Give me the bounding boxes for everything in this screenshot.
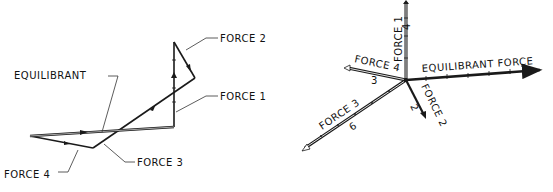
force4-vector: [30, 136, 93, 148]
leader-lines: [58, 38, 218, 172]
arrow-icon: [171, 72, 177, 78]
label-force1-magnitude: 4: [401, 24, 412, 30]
label-force2-magnitude: 2: [408, 102, 421, 113]
label-force1: FORCE 1: [220, 91, 266, 102]
arrow-icon: [344, 65, 350, 71]
force-diagrams: FORCE 2 EQUILIBRANT FORCE 1 FORCE 3 FORC…: [0, 0, 553, 192]
label-force1: FORCE 1: [393, 16, 404, 62]
label-force2: FORCE 2: [419, 82, 449, 129]
label-equilibrant: EQUILIBRANT: [14, 70, 87, 81]
label-force3: FORCE 3: [137, 157, 183, 168]
origin-point: [404, 78, 408, 82]
force3-vector: [93, 78, 195, 148]
force2-vector: [174, 42, 195, 78]
label-force4-magnitude: 3: [371, 75, 377, 86]
label-force4: FORCE 4: [4, 169, 50, 180]
arrow-icon: [403, 0, 409, 4]
force-polygon: FORCE 2 EQUILIBRANT FORCE 1 FORCE 3 FORC…: [4, 33, 266, 180]
label-force3-magnitude: 6: [347, 120, 358, 133]
concurrent-vectors: FORCE 1 4 EQUILIBRANT FORCE FORCE 4 3 FO…: [302, 0, 540, 151]
arrow-icon: [420, 111, 426, 119]
label-force2: FORCE 2: [220, 33, 266, 44]
